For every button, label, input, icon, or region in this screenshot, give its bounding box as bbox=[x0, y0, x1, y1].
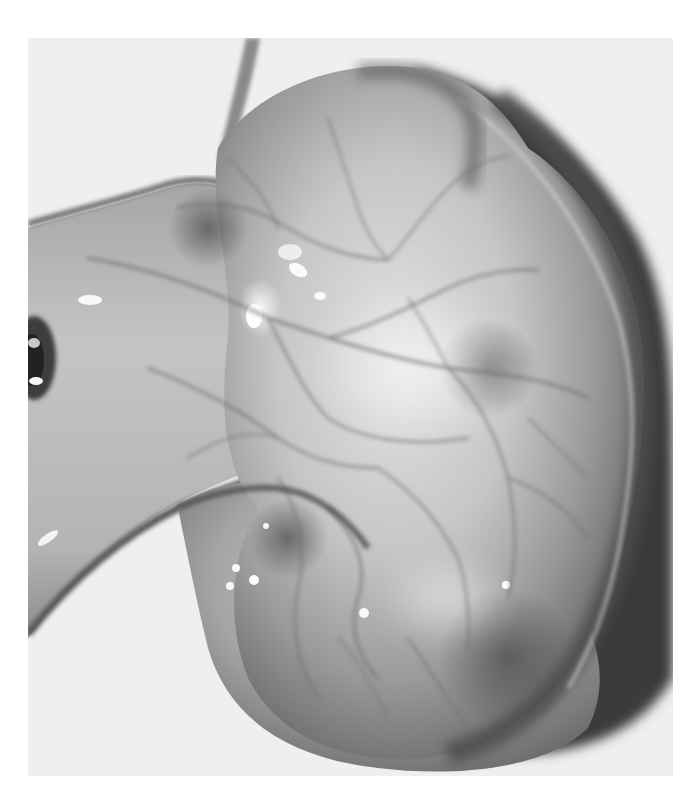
specimen-illustration bbox=[28, 38, 673, 776]
specimen-photo bbox=[28, 38, 673, 776]
